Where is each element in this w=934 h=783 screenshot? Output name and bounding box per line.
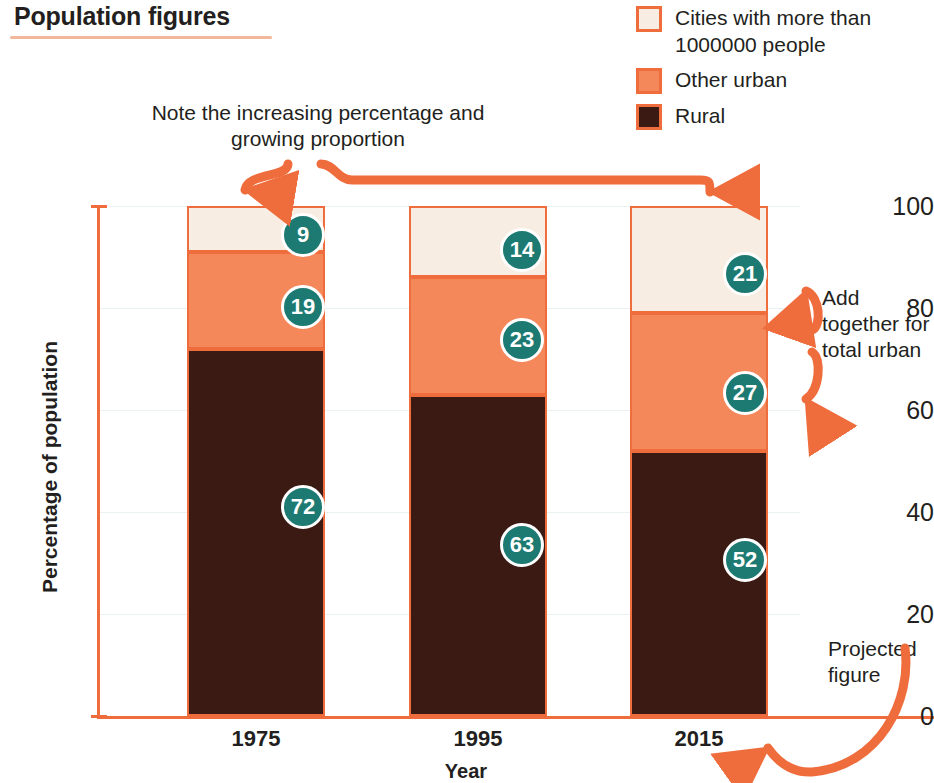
value-bubble-1995-cities: 14	[500, 228, 544, 272]
value-bubble-1995-other-urban: 23	[500, 318, 544, 362]
value-bubble-1995-rural: 63	[500, 523, 544, 567]
y-tick-label-100: 100	[848, 192, 934, 221]
x-tick-label-1995: 1995	[409, 726, 547, 752]
value-bubble-2015-other-urban: 27	[723, 371, 767, 415]
y-tick-label-60: 60	[848, 396, 934, 425]
x-axis-line	[97, 716, 934, 719]
annotation-note: Note the increasing percentage and growi…	[148, 100, 488, 152]
y-tick-dash-100	[91, 205, 107, 208]
y-tick-label-0: 0	[848, 702, 934, 731]
bar-segment-2015-rural[interactable]	[630, 451, 768, 716]
y-tick-dash-0	[91, 715, 107, 718]
value-bubble-1975-cities: 9	[281, 213, 325, 257]
x-axis-title: Year	[406, 760, 526, 783]
bar-1995[interactable]	[409, 206, 547, 716]
bar-segment-1975-rural[interactable]	[187, 349, 325, 716]
value-bubble-1975-rural: 72	[281, 485, 325, 529]
value-bubble-1975-other-urban: 19	[281, 285, 325, 329]
value-bubble-2015-cities: 21	[723, 252, 767, 296]
bar-1975[interactable]	[187, 206, 325, 716]
x-tick-label-2015: 2015	[630, 726, 768, 752]
value-bubble-2015-rural: 52	[723, 538, 767, 582]
y-tick-label-20: 20	[848, 600, 934, 629]
y-axis-line	[97, 205, 100, 718]
y-axis-title: Percentage of population	[38, 257, 62, 677]
y-tick-label-40: 40	[848, 498, 934, 527]
annotation-projected-figure: Projected figure	[828, 636, 934, 688]
annotation-total-urban: Add together for total urban	[822, 285, 932, 363]
x-tick-label-1975: 1975	[187, 726, 325, 752]
